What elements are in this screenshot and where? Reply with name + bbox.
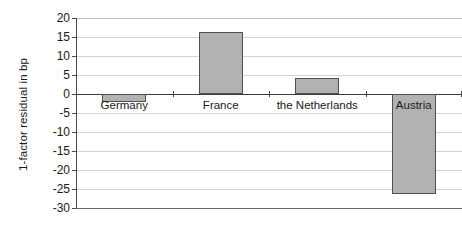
x-axis-category-label: France xyxy=(203,100,239,112)
gridline xyxy=(76,18,462,19)
plot-area: GermanyFrancethe NetherlandsAustria xyxy=(76,18,462,208)
x-axis-tick-mark xyxy=(173,91,174,97)
gridline xyxy=(76,37,462,38)
x-axis-category-label: Austria xyxy=(396,100,432,112)
y-axis-tick-labels: 20151050-5-10-15-20-25-30 xyxy=(34,0,74,229)
gridline xyxy=(76,56,462,57)
x-axis-tick-mark xyxy=(269,91,270,97)
y-axis-tick-label: 15 xyxy=(57,31,70,43)
y-axis-tick-mark xyxy=(72,132,77,133)
y-axis-tick-label: 20 xyxy=(57,12,70,24)
x-axis-tick-mark xyxy=(366,91,367,97)
x-axis-category-label: the Netherlands xyxy=(277,100,358,112)
y-axis-tick-label: -25 xyxy=(53,183,70,195)
y-axis-tick-mark xyxy=(72,151,77,152)
y-axis-tick-label: -30 xyxy=(53,202,70,214)
y-axis-tick-label: 5 xyxy=(63,69,70,81)
x-axis-category-label: Germany xyxy=(101,100,148,112)
y-axis-tick-label: -5 xyxy=(59,107,70,119)
gridline xyxy=(76,75,462,76)
y-axis-tick-label: 0 xyxy=(63,88,70,100)
y-axis-title: 1-factor residual in bp xyxy=(14,0,32,229)
y-axis-tick-label: 10 xyxy=(57,50,70,62)
y-axis-tick-mark xyxy=(72,189,77,190)
y-axis-tick-label: -20 xyxy=(53,164,70,176)
bar xyxy=(295,78,339,94)
y-axis-tick-mark xyxy=(72,113,77,114)
y-axis-tick-mark xyxy=(72,170,77,171)
bar-chart: 1-factor residual in bp 20151050-5-10-15… xyxy=(0,0,462,229)
bar xyxy=(199,32,243,94)
y-axis-tick-mark xyxy=(72,18,77,19)
y-axis-tick-mark xyxy=(72,75,77,76)
y-axis-tick-mark xyxy=(72,56,77,57)
y-axis-tick-label: -10 xyxy=(53,126,70,138)
y-axis-tick-label: -15 xyxy=(53,145,70,157)
y-axis-tick-mark xyxy=(72,37,77,38)
bottom-axis-line xyxy=(76,208,462,209)
